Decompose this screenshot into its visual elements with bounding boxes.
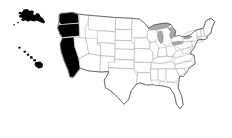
state-kansas[interactable] (115, 49, 134, 60)
state-missouri[interactable] (134, 48, 153, 62)
state-nebraska[interactable] (115, 40, 135, 49)
us-choropleth-map (0, 0, 232, 138)
state-south-dakota[interactable] (115, 29, 131, 40)
state-north-dakota[interactable] (115, 18, 132, 30)
state-alabama[interactable] (158, 69, 166, 81)
map-canvas (0, 0, 232, 138)
state-iowa[interactable] (134, 38, 150, 49)
state-indiana[interactable] (158, 47, 167, 57)
state-montana[interactable] (88, 15, 115, 31)
state-arkansas[interactable] (134, 62, 151, 72)
state-wyoming[interactable] (97, 31, 115, 44)
state-mississippi[interactable] (150, 69, 158, 80)
